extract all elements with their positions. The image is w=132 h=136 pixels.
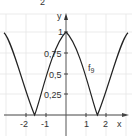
y-tick-label: 0,75 [44,49,62,59]
x-axis-label: x [117,119,122,129]
y-tick-label: 1 [58,27,63,37]
x-tick-label: -1 [41,119,49,129]
x-tick-label: 2 [103,119,108,129]
chart: 2 y x -2 -1 1 2 0,25 0,5 0,75 1 f9 [0,0,132,136]
x-tick-label: 1 [84,119,89,129]
function-label: f9 [88,63,95,74]
top-fragment: 2 [40,0,45,7]
y-axis-label: y [57,11,62,21]
x-axis-arrow-icon [122,113,129,117]
y-tick-label: 0,5 [49,70,62,80]
x-tick-label: -2 [20,119,28,129]
function-label-sub: 9 [91,67,95,74]
y-tick-label: 0,25 [44,90,62,100]
